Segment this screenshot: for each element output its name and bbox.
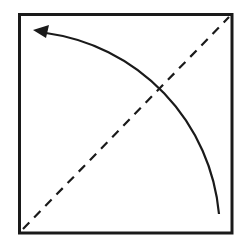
diagram-canvas [0, 0, 249, 249]
